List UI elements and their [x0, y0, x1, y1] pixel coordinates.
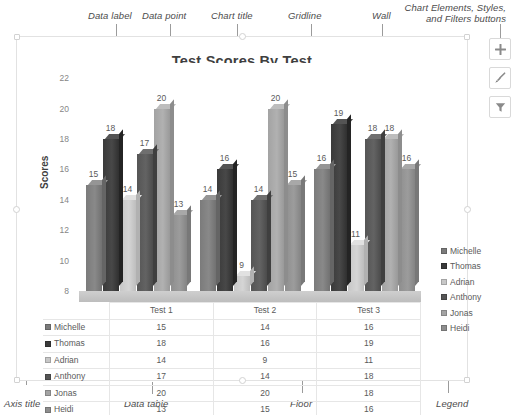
- chart-floor[interactable]: [79, 291, 421, 302]
- plus-icon: [495, 44, 506, 55]
- bar-group: 161911181816: [307, 63, 421, 291]
- data-table-row-header: Adrian: [43, 352, 110, 369]
- legend-key-icon: [45, 324, 51, 330]
- data-label[interactable]: 18: [368, 123, 377, 133]
- data-point-wrapper: 14: [251, 63, 267, 291]
- data-table-series-name: Heidi: [54, 404, 73, 414]
- data-label[interactable]: 16: [402, 153, 411, 163]
- annotation-legend-label: Legend: [436, 398, 468, 409]
- data-table-series-name: Michelle: [54, 322, 85, 332]
- data-label[interactable]: 9: [239, 260, 244, 270]
- value-axis-tick-label: 22: [45, 73, 69, 83]
- legend-key-icon: [441, 325, 447, 331]
- data-table-cell: 18: [110, 336, 214, 353]
- data-table-series-name: Jonas: [54, 388, 77, 398]
- value-axis-tick-label: 20: [45, 104, 69, 114]
- data-label[interactable]: 18: [106, 123, 115, 133]
- bar-group: 14169142015: [193, 63, 307, 291]
- data-label[interactable]: 15: [288, 169, 297, 179]
- legend-key-icon: [441, 294, 447, 300]
- data-point-side: [119, 129, 123, 286]
- data-point-side: [136, 190, 140, 286]
- data-table[interactable]: Test 1Test 2Test 3Michelle151416Thomas18…: [43, 302, 421, 415]
- chart-filters-button[interactable]: [489, 96, 511, 118]
- data-table-column-header: Test 2: [213, 303, 317, 320]
- data-point-side: [415, 160, 419, 286]
- data-label[interactable]: 20: [271, 93, 280, 103]
- data-label[interactable]: 14: [254, 184, 263, 194]
- annotation-chart-buttons-label: Chart Elements, Styles, and Filters butt…: [388, 2, 506, 24]
- data-table-row: Thomas181619: [43, 336, 421, 353]
- bar-group: 151814172013: [79, 63, 193, 291]
- data-point-side: [233, 160, 237, 286]
- value-axis-tick-label: 14: [45, 195, 69, 205]
- data-table-row-header: Michelle: [43, 319, 110, 336]
- annotation-chart-title-label: Chart title: [211, 10, 253, 21]
- data-label[interactable]: 19: [334, 108, 343, 118]
- data-table-cell: 15: [213, 402, 317, 415]
- data-point[interactable]: [314, 169, 330, 291]
- data-table-column-header: Test 1: [110, 303, 214, 320]
- data-table-row-header: Thomas: [43, 336, 110, 353]
- legend-item[interactable]: Jonas: [441, 305, 501, 321]
- legend-item[interactable]: Michelle: [441, 243, 501, 259]
- legend-item[interactable]: Heidi: [441, 321, 501, 337]
- annotation-gridline-label: Gridline: [288, 10, 322, 21]
- chart-plot-wrapper: Test Scores By Test Scores 8101214161820…: [17, 37, 467, 380]
- data-table-cell: 20: [110, 385, 214, 402]
- plot-area[interactable]: 15181417201314169142015161911181816: [79, 63, 421, 291]
- data-label[interactable]: 17: [140, 138, 149, 148]
- data-table-series-name: Adrian: [54, 355, 79, 365]
- data-table-cell: 14: [213, 369, 317, 386]
- data-point-side: [170, 99, 174, 286]
- legend-item-label: Jonas: [450, 308, 473, 318]
- data-label[interactable]: 20: [157, 93, 166, 103]
- data-table-row: Anthony171418: [43, 369, 421, 386]
- legend-item[interactable]: Anthony: [441, 290, 501, 306]
- value-axis-tick-label: 10: [45, 256, 69, 266]
- chart-elements-button[interactable]: [489, 38, 511, 60]
- data-table-cell: 19: [317, 336, 421, 353]
- legend-item-label: Thomas: [450, 261, 481, 271]
- data-table-corner-cell: [43, 303, 110, 320]
- legend-key-icon: [45, 357, 51, 363]
- data-table-row: Michelle151416: [43, 319, 421, 336]
- data-point-side: [398, 129, 402, 286]
- legend-item-label: Heidi: [450, 323, 469, 333]
- legend-key-icon: [45, 341, 51, 347]
- data-point[interactable]: [200, 200, 216, 291]
- legend-key-icon: [441, 310, 447, 316]
- data-table-row-header: Jonas: [43, 385, 110, 402]
- data-table-cell: 16: [317, 402, 421, 415]
- chart-styles-button[interactable]: [489, 67, 511, 89]
- legend-item[interactable]: Adrian: [441, 274, 501, 290]
- data-table-cell: 14: [213, 319, 317, 336]
- data-table-row: Jonas202018: [43, 385, 421, 402]
- data-label[interactable]: 18: [385, 123, 394, 133]
- annotation-chart-buttons-leader-line: [500, 24, 501, 38]
- legend-item-label: Michelle: [450, 246, 481, 256]
- data-table-cell: 20: [213, 385, 317, 402]
- data-table-cell: 14: [110, 352, 214, 369]
- data-table-cell: 11: [317, 352, 421, 369]
- data-point-side: [267, 190, 271, 286]
- annotation-axis-title-label: Axis title: [4, 398, 40, 409]
- data-point-side: [364, 236, 368, 286]
- data-label[interactable]: 14: [203, 184, 212, 194]
- data-table-row: Heidi131516: [43, 402, 421, 415]
- data-label[interactable]: 15: [89, 169, 98, 179]
- data-label[interactable]: 13: [174, 199, 183, 209]
- legend-item[interactable]: Thomas: [441, 259, 501, 275]
- data-point-side: [381, 129, 385, 286]
- data-label[interactable]: 14: [123, 184, 132, 194]
- data-table-row-header: Anthony: [43, 369, 110, 386]
- data-label[interactable]: 11: [351, 229, 360, 239]
- legend[interactable]: MichelleThomasAdrianAnthonyJonasHeidi: [441, 243, 501, 336]
- chart-object-frame[interactable]: Test Scores By Test Scores 8101214161820…: [16, 36, 468, 381]
- bar-groups: 15181417201314169142015161911181816: [79, 63, 421, 291]
- data-table-column-header: Test 3: [317, 303, 421, 320]
- data-table-cell: 16: [317, 319, 421, 336]
- data-label[interactable]: 16: [220, 153, 229, 163]
- data-point[interactable]: [86, 185, 102, 291]
- data-label[interactable]: 16: [317, 153, 326, 163]
